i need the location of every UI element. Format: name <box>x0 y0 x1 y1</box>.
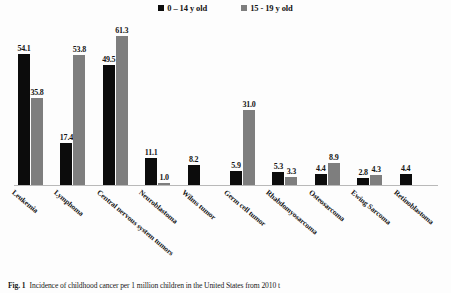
bar-value-label: 1.0 <box>159 173 168 182</box>
bar-series-0-14: 17.4 <box>60 143 72 185</box>
bar-value-label: 49.5 <box>102 55 115 64</box>
legend-label-0-14: 0 – 14 y old <box>167 3 207 13</box>
bar-value-label: 5.3 <box>274 162 283 171</box>
bar-rect <box>158 183 170 185</box>
x-axis-baseline <box>14 185 438 186</box>
bar-rect <box>370 175 382 185</box>
bar-series-15-19: 4.3 <box>370 175 382 185</box>
bar-value-label: 35.8 <box>30 88 43 97</box>
bar-rect <box>400 174 412 185</box>
legend-swatch-gray <box>241 5 247 11</box>
bar-value-label: 17.4 <box>60 133 73 142</box>
bar-rect <box>357 178 369 185</box>
legend-swatch-black <box>158 5 164 11</box>
figure-number: Fig. 1 <box>8 281 26 290</box>
bar-rect <box>315 174 327 185</box>
bar-rect <box>188 165 200 185</box>
bar-rect <box>145 158 157 185</box>
bar-series-0-14: 5.3 <box>272 172 284 185</box>
bar-series-0-14: 4.4 <box>315 174 327 185</box>
bar-series-15-19: 31.0 <box>243 110 255 185</box>
x-axis-label: Wilms tumor <box>180 188 218 222</box>
bar-rect <box>60 143 72 185</box>
bar-value-label: 4.4 <box>316 164 325 173</box>
legend-label-15-19: 15 - 19 y old <box>250 3 293 13</box>
bar-series-15-19: 3.3 <box>285 177 297 185</box>
bar-series-0-14: 54.1 <box>18 54 30 185</box>
bar-series-15-19: 61.3 <box>116 36 128 185</box>
x-axis-label: Ewing Sarcoma <box>349 188 392 227</box>
x-axis-label: Central nervous system tumors <box>95 188 175 257</box>
bar-value-label: 3.3 <box>287 167 296 176</box>
plot-area: 54.135.817.453.849.561.311.11.08.25.931.… <box>14 26 438 186</box>
bar-group: 2.84.3 <box>357 175 382 185</box>
x-axis-label: Lymphoma <box>53 188 86 218</box>
bar-series-0-14: 2.8 <box>357 178 369 185</box>
bar-series-15-19: 1.0 <box>158 183 170 185</box>
bar-series-0-14: 5.9 <box>230 171 242 185</box>
x-axis-category-labels: LeukemiaLymphomaCentral nervous system t… <box>14 188 438 268</box>
bar-value-label: 11.1 <box>145 148 158 157</box>
bar-rect <box>73 55 85 185</box>
bar-value-label: 2.8 <box>358 168 367 177</box>
x-axis-label: Osteosarcoma <box>307 188 347 223</box>
bar-group: 54.135.8 <box>18 54 43 185</box>
bar-rect <box>116 36 128 185</box>
bar-value-label: 53.8 <box>73 45 86 54</box>
bar-group: 8.2 <box>188 165 201 185</box>
bar-series-15-19: 8.9 <box>328 163 340 185</box>
bar-group: 49.561.3 <box>103 36 128 185</box>
bar-rect <box>230 171 242 185</box>
bar-series-15-19: 35.8 <box>31 98 43 185</box>
legend-item-15-19: 15 - 19 y old <box>241 3 293 13</box>
bar-value-label: 31.0 <box>242 100 255 109</box>
x-axis-label: Leukemia <box>10 188 40 215</box>
bar-group: 17.453.8 <box>60 55 85 185</box>
bar-group: 4.4 <box>400 174 413 185</box>
x-axis-label: Retinoblastoma <box>392 188 435 226</box>
bar-rect <box>103 65 115 185</box>
legend-item-0-14: 0 – 14 y old <box>158 3 207 13</box>
bar-rect <box>272 172 284 185</box>
bar-series-15-19: 53.8 <box>73 55 85 185</box>
bar-series-0-14: 4.4 <box>400 174 412 185</box>
bar-value-label: 54.1 <box>17 44 30 53</box>
chart-legend: 0 – 14 y old 15 - 19 y old <box>0 3 451 13</box>
bar-value-label: 61.3 <box>115 26 128 35</box>
bar-value-label: 4.3 <box>371 165 380 174</box>
bar-rect <box>31 98 43 185</box>
figure-caption-text: Incidence of childhood cancer per 1 mill… <box>30 281 280 290</box>
bar-group: 11.11.0 <box>145 158 170 185</box>
bar-rect <box>285 177 297 185</box>
bar-value-label: 8.2 <box>189 155 198 164</box>
bar-rect <box>243 110 255 185</box>
bar-series-0-14: 49.5 <box>103 65 115 185</box>
x-axis-label: Neuroblastoma <box>137 188 179 226</box>
bar-series-0-14: 8.2 <box>188 165 200 185</box>
bar-series-0-14: 11.1 <box>145 158 157 185</box>
bar-group: 4.48.9 <box>315 163 340 185</box>
figure-caption: Fig. 1Incidence of childhood cancer per … <box>8 281 448 290</box>
x-axis-label: Germ cell tumor <box>222 188 267 228</box>
bar-group: 5.33.3 <box>272 172 297 185</box>
bar-value-label: 8.9 <box>329 153 338 162</box>
bar-rect <box>328 163 340 185</box>
figure-container: 0 – 14 y old 15 - 19 y old 54.135.817.45… <box>0 0 451 293</box>
bar-group: 5.931.0 <box>230 110 255 185</box>
bar-value-label: 4.4 <box>401 164 410 173</box>
bar-rect <box>18 54 30 185</box>
bar-value-label: 5.9 <box>231 161 240 170</box>
